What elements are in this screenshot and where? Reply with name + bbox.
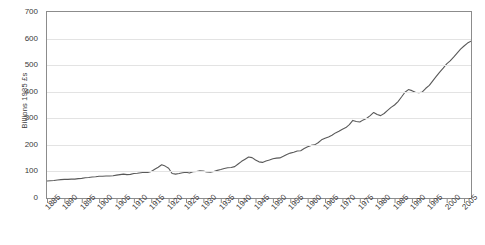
x-axis-tick-labels: 1885189018951900190519101915192019251930… [0,203,485,245]
chart-root: Billions 1985 £s 0100200300400500600700 … [0,0,485,245]
gridline [47,92,471,93]
gridline [47,118,471,119]
plot-area [46,11,472,199]
gridline [47,171,471,172]
gridline [47,145,471,146]
gridline [47,39,471,40]
y-axis-title: Billions 1985 £s [20,31,29,171]
y-axis-tick-label: 700 [0,8,38,16]
gridline [47,65,471,66]
